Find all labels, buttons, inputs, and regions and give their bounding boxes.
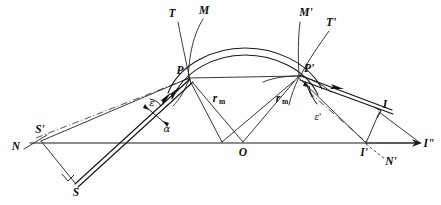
label-point-T: T [168,7,176,19]
label-angle-alpha: α [164,123,171,134]
diagram-root: N S' S T M P M' T' P' O I I' I" N' ε α ε… [0,0,441,205]
label-point-Idouble: I" [423,137,435,149]
normal-Iprime-to-Nprime [366,144,385,159]
label-angle-epsilon: ε [149,97,154,108]
label-rm-left-sub: m [219,97,226,106]
label-point-Iprime: I' [359,146,368,158]
P-tangent-normal-group [173,19,203,106]
exit-angle-marks [303,81,317,104]
curve-Mprime-through-Pprime [298,22,300,76]
label-rm-left: r m [213,92,226,106]
curve-M-through-P [188,19,203,82]
label-point-I: I [382,98,388,110]
exit-ray-arrowhead [330,84,344,89]
segment-N-to-Sprime [24,135,47,149]
label-rm-right: r m [276,92,289,106]
label-point-Nprime: N' [384,155,397,167]
exit-ray-outer [299,75,392,110]
label-rm-right-base: r [276,92,281,104]
label-rm-left-base: r [213,92,218,104]
alpha-tick-arrow-top [143,104,149,110]
label-point-Sprime: S' [35,123,45,135]
label-rm-right-sub: m [282,97,289,106]
radius-line-P-to-O [193,83,243,142]
ray-geometry-figure: N S' S T M P M' T' P' O I I' I" N' ε α ε… [0,0,441,205]
segment-I-to-Idouble [379,112,419,142]
incident-ray-S-to-P-inner [78,82,193,187]
label-point-Tprime: T' [326,16,336,28]
exit-ray-inner [300,80,393,114]
Pprime-tangent-normal-group [263,22,331,105]
label-point-N: N [11,140,21,152]
label-point-P: P [176,64,184,76]
segment-Sprime-to-S [41,141,75,183]
label-point-O: O [239,146,247,158]
label-angle-epsilon-prime: ε' [315,112,322,122]
label-point-Pprime: P' [304,62,314,74]
radius-lines-group [189,77,298,142]
label-point-S: S [73,186,79,198]
radius-line-Pprime-to-O [243,77,298,142]
label-point-Mprime: M' [298,6,312,18]
radius-line-P-to-axis [189,79,222,142]
label-point-M: M [198,4,210,16]
radius-line-Pprime-to-axis [222,81,294,142]
